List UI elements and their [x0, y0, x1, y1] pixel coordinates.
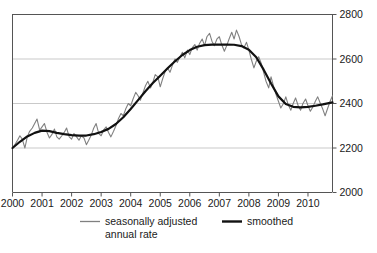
x-tick-label-2002: 2002 [60, 197, 84, 209]
legend-label-seasonally-adjusted-line2: annual rate [105, 228, 158, 240]
x-tick-label-2001: 2001 [30, 197, 54, 209]
x-tick-label-2008: 2008 [237, 197, 261, 209]
x-tick-label-2010: 2010 [296, 197, 320, 209]
chart-container: 20002200240026002800 2000200120022003200… [0, 0, 377, 253]
x-tick-label-2009: 2009 [267, 197, 291, 209]
y-tick-label-2600: 2600 [340, 53, 364, 65]
line-chart: 20002200240026002800 2000200120022003200… [0, 0, 377, 253]
x-tick-label-2006: 2006 [178, 197, 202, 209]
x-tick-label-2003: 2003 [89, 197, 113, 209]
y-tick-label-2000: 2000 [340, 186, 364, 198]
legend-label-seasonally-adjusted: seasonally adjusted [105, 215, 197, 227]
y-tick-label-2400: 2400 [340, 97, 364, 109]
y-tick-label-2800: 2800 [340, 8, 364, 20]
x-tick-label-2007: 2007 [208, 197, 232, 209]
x-tick-label-2000: 2000 [1, 197, 25, 209]
x-tick-label-2004: 2004 [119, 197, 143, 209]
y-tick-label-2200: 2200 [340, 142, 364, 154]
legend-label-smoothed: smoothed [247, 215, 293, 227]
x-tick-label-2005: 2005 [149, 197, 173, 209]
